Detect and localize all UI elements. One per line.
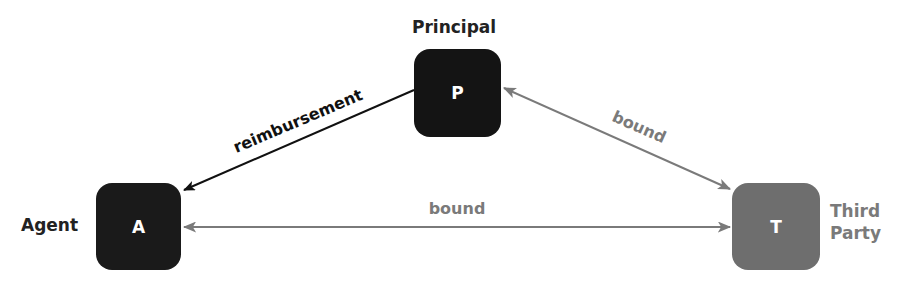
- edge-principal-agent: [184, 90, 414, 190]
- principal-letter: P: [451, 83, 463, 103]
- principal-node[interactable]: P: [414, 49, 501, 137]
- third-party-letter: T: [770, 217, 782, 237]
- third-party-label-line1: Third: [830, 200, 881, 222]
- agent-node[interactable]: A: [96, 183, 181, 270]
- edge-principal-third: [504, 88, 730, 189]
- third-party-label-line2: Party: [830, 222, 881, 244]
- principal-label: Principal: [412, 17, 496, 37]
- third-party-node[interactable]: T: [732, 183, 820, 270]
- agent-letter: A: [132, 217, 145, 237]
- agent-label: Agent: [21, 215, 78, 235]
- third-party-label: Third Party: [830, 200, 881, 244]
- edge-label-bound-horizontal: bound: [429, 199, 486, 218]
- edge-label-bound-diagonal: bound: [609, 107, 669, 147]
